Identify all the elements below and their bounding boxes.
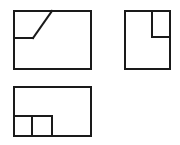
side-view	[125, 11, 170, 69]
drawing-canvas	[0, 0, 180, 145]
front-view-outline	[14, 11, 91, 69]
orthographic-drawing	[0, 0, 180, 145]
front-view	[14, 11, 91, 69]
side-view-outline	[125, 11, 170, 69]
top-view	[14, 87, 91, 136]
